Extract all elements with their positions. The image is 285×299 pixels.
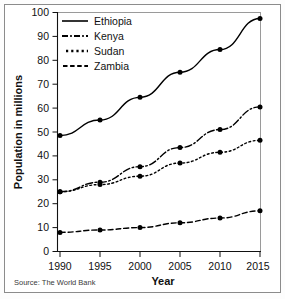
data-point-sudan-2010 bbox=[218, 150, 223, 155]
x-tick-label: 1995 bbox=[88, 260, 112, 272]
y-axis-title: Population in millions bbox=[12, 75, 24, 189]
data-point-sudan-2015 bbox=[258, 138, 263, 143]
x-tick-label: 2000 bbox=[128, 260, 152, 272]
y-tick-label: 30 bbox=[37, 173, 49, 185]
source-note: Source: The World Bank bbox=[14, 278, 96, 287]
data-point-ethiopia-2005 bbox=[178, 70, 183, 75]
data-point-zambia-2005 bbox=[178, 220, 183, 225]
legend-label-zambia: Zambia bbox=[94, 60, 129, 72]
x-tick-label: 2010 bbox=[208, 260, 232, 272]
data-point-zambia-1995 bbox=[98, 227, 103, 232]
legend-label-kenya: Kenya bbox=[94, 30, 124, 42]
chart-legend: Ethiopia Kenya Sudan Zambia bbox=[62, 15, 132, 72]
y-tick-label: 100 bbox=[31, 6, 49, 18]
data-point-zambia-2015 bbox=[258, 208, 263, 213]
y-tick-label: 70 bbox=[37, 78, 49, 90]
series-line-sudan bbox=[60, 140, 260, 191]
data-point-sudan-1995 bbox=[98, 182, 103, 187]
y-tick-label: 90 bbox=[37, 30, 49, 42]
series-markers bbox=[58, 16, 263, 235]
data-point-zambia-2000 bbox=[138, 225, 143, 230]
data-point-ethiopia-1995 bbox=[98, 118, 103, 123]
data-point-kenya-2005 bbox=[178, 145, 183, 150]
population-line-chart: 100 90 80 70 60 50 40 30 20 10 0 bbox=[0, 0, 285, 299]
figure-container: 100 90 80 70 60 50 40 30 20 10 0 bbox=[0, 0, 285, 299]
data-point-sudan-2005 bbox=[178, 161, 183, 166]
y-tick-label: 50 bbox=[37, 126, 49, 138]
data-point-ethiopia-2000 bbox=[138, 95, 143, 100]
y-axis-ticks: 100 90 80 70 60 50 40 30 20 10 0 bbox=[31, 6, 57, 257]
series-line-zambia bbox=[60, 211, 260, 233]
series-line-ethiopia bbox=[60, 18, 260, 135]
legend-label-ethiopia: Ethiopia bbox=[94, 15, 132, 27]
y-tick-label: 10 bbox=[37, 221, 49, 233]
x-tick-label: 2015 bbox=[246, 260, 270, 272]
data-point-ethiopia-2015 bbox=[258, 16, 263, 21]
data-point-zambia-2010 bbox=[218, 216, 223, 221]
x-tick-label: 2005 bbox=[168, 260, 192, 272]
y-tick-label: 60 bbox=[37, 102, 49, 114]
series-line-kenya bbox=[60, 107, 260, 192]
legend-label-sudan: Sudan bbox=[94, 45, 125, 57]
y-tick-label: 80 bbox=[37, 54, 49, 66]
data-point-ethiopia-1990 bbox=[58, 133, 63, 138]
series-group bbox=[58, 16, 263, 235]
data-point-zambia-1990 bbox=[58, 230, 63, 235]
plot-area-border bbox=[58, 13, 261, 252]
x-axis-ticks: 1990 1995 2000 2005 2010 2015 bbox=[48, 252, 270, 273]
y-tick-label: 0 bbox=[43, 245, 49, 257]
data-point-ethiopia-2010 bbox=[218, 47, 223, 52]
data-point-kenya-2000 bbox=[138, 164, 143, 169]
y-tick-label: 20 bbox=[37, 197, 49, 209]
data-point-kenya-2015 bbox=[258, 104, 263, 109]
data-point-sudan-1990 bbox=[58, 189, 63, 194]
data-point-sudan-2000 bbox=[138, 174, 143, 179]
data-point-kenya-2010 bbox=[218, 127, 223, 132]
x-tick-label: 1990 bbox=[48, 260, 72, 272]
x-axis-title: Year bbox=[151, 275, 175, 287]
y-tick-label: 40 bbox=[37, 149, 49, 161]
